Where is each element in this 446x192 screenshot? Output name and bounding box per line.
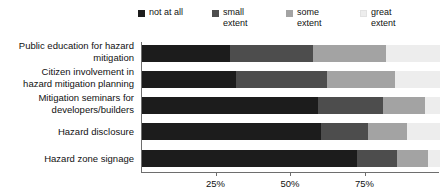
plot-area: 25%50%75%: [141, 42, 439, 172]
legend-item[interactable]: small extent: [212, 7, 248, 28]
category-label: Public education for hazard mitigation: [0, 40, 134, 63]
bar-segment[interactable]: [236, 71, 327, 88]
legend-item-label: small extent: [223, 7, 248, 28]
category-label: Hazard disclosure: [0, 126, 134, 138]
legend-item[interactable]: great extent: [360, 7, 396, 28]
bar-segment[interactable]: [230, 45, 313, 62]
legend-item-label: some extent: [297, 7, 322, 28]
x-axis-tick-mark: [290, 172, 291, 176]
chart-legend: not at allsmall extentsome extentgreat e…: [138, 7, 438, 37]
bar-segment[interactable]: [383, 97, 425, 114]
bar-segment[interactable]: [142, 45, 230, 62]
bar-segment[interactable]: [142, 150, 357, 167]
bar-segment[interactable]: [395, 71, 440, 88]
legend-item-label: great extent: [371, 7, 396, 28]
bar-segment[interactable]: [142, 123, 321, 140]
bar-segment[interactable]: [407, 123, 440, 140]
bar-segment[interactable]: [357, 150, 397, 167]
bar-row[interactable]: [142, 123, 440, 140]
bar-segment[interactable]: [318, 97, 384, 114]
x-axis-tick-mark: [216, 172, 217, 176]
bar-segment[interactable]: [397, 150, 428, 167]
bar-segment[interactable]: [142, 97, 318, 114]
bar-segment[interactable]: [142, 71, 236, 88]
category-label: Citizen involvement in hazard mitigation…: [0, 66, 134, 89]
legend-item[interactable]: some extent: [286, 7, 322, 28]
legend-swatch-icon: [360, 10, 367, 17]
legend-swatch-icon: [286, 10, 293, 17]
bar-row[interactable]: [142, 45, 440, 62]
x-axis-tick-mark: [365, 172, 366, 176]
x-axis-tick-label: 50%: [280, 178, 299, 189]
legend-swatch-icon: [138, 10, 145, 17]
bar-segment[interactable]: [321, 123, 369, 140]
legend-swatch-icon: [212, 10, 219, 17]
x-axis-tick-label: 25%: [206, 178, 225, 189]
category-label: Hazard zone signage: [0, 153, 134, 165]
bar-segment[interactable]: [313, 45, 386, 62]
x-axis-tick-label: 75%: [355, 178, 374, 189]
category-label: Mitigation seminars for developers/build…: [0, 92, 134, 115]
bar-segment[interactable]: [327, 71, 396, 88]
bar-segment[interactable]: [425, 97, 440, 114]
bar-row[interactable]: [142, 71, 440, 88]
bar-segment[interactable]: [368, 123, 407, 140]
bar-segment[interactable]: [428, 150, 440, 167]
bar-segment[interactable]: [386, 45, 440, 62]
stacked-bar-chart: not at allsmall extentsome extentgreat e…: [0, 0, 446, 192]
legend-item-label: not at all: [149, 7, 183, 18]
bar-row[interactable]: [142, 150, 440, 167]
bar-row[interactable]: [142, 97, 440, 114]
legend-item[interactable]: not at all: [138, 7, 183, 18]
